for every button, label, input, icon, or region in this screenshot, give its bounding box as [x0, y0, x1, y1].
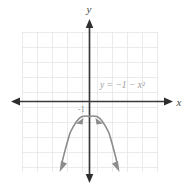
y-axis-bottom-arrowhead [86, 174, 94, 183]
x-axis-left-arrowhead [11, 98, 20, 106]
equation-label: y = −1 − x² [99, 80, 145, 90]
tick-label-minus-one: -1 [78, 105, 85, 114]
y-axis-label: y [86, 3, 92, 15]
graph-canvas: y x y = −1 − x² -1 [0, 0, 192, 191]
curve-lower-right-arrowhead [112, 161, 120, 172]
y-axis-top-arrowhead [86, 19, 94, 28]
x-axis [11, 98, 173, 106]
x-axis-label: x [176, 96, 182, 108]
coordinate-plane-svg: y x y = −1 − x² -1 [0, 0, 192, 191]
x-axis-right-arrowhead [164, 98, 173, 106]
curve-lower-left-arrowhead [60, 161, 68, 172]
